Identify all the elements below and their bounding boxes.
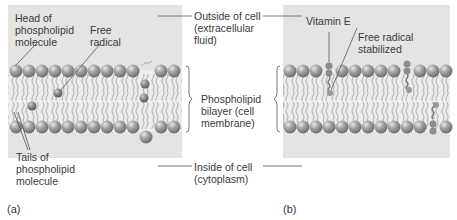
label-free-radical: Free radical [90,24,121,48]
label-phospholipid-bilayer: Phospholipid bilayer (cell membrane) [201,93,261,129]
label-tails-of-phospholipid: Tails of phospholipid molecule [16,151,75,187]
panel-a-bilayer [8,61,182,144]
label-inside-of-cell: Inside of cell (cytoplasm) [194,161,252,185]
caption-b: (b) [283,203,296,215]
label-outside-of-cell: Outside of cell (extracellular fluid) [194,10,261,46]
label-free-radical-stabilized: Free radical stabilized [358,31,413,55]
label-vitamin-e: Vitamin E [306,15,351,27]
panel-b-bilayer [283,61,453,135]
label-head-of-phospholipid: Head of phospholipid molecule [15,12,74,48]
caption-a: (a) [7,203,20,215]
